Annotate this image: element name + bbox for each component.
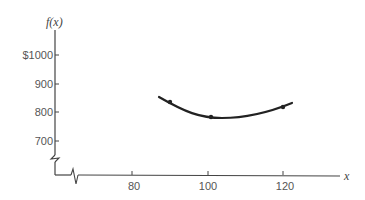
y-tick-label: 700 bbox=[35, 135, 53, 147]
x-axis-break bbox=[71, 169, 78, 184]
data-point bbox=[209, 115, 213, 119]
y-tick-label: $1000 bbox=[22, 49, 53, 61]
f-x-curve bbox=[159, 97, 292, 118]
y-axis-label: f(x) bbox=[46, 15, 63, 29]
x-axis-label: x bbox=[343, 169, 350, 183]
y-tick-label: 800 bbox=[35, 106, 53, 118]
y-tick-label: 900 bbox=[35, 78, 53, 90]
data-point bbox=[168, 100, 172, 104]
x-axis bbox=[78, 175, 340, 176]
data-point bbox=[281, 105, 285, 109]
x-tick-label: 80 bbox=[128, 180, 140, 192]
x-tick-label: 100 bbox=[199, 180, 217, 192]
chart: f(x) $1000 900 800 700 80 100 120 x bbox=[0, 0, 365, 200]
x-tick-label: 120 bbox=[276, 180, 294, 192]
y-axis-break bbox=[51, 155, 59, 162]
chart-canvas: f(x) $1000 900 800 700 80 100 120 x bbox=[0, 0, 365, 200]
x-ticks bbox=[132, 171, 283, 175]
